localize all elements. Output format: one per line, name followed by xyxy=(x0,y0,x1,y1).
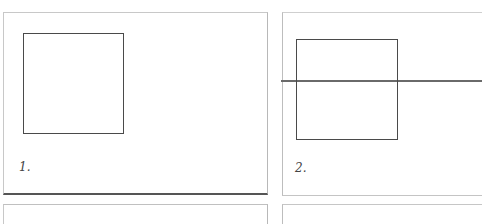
figure-panel-2: 2. xyxy=(282,12,482,196)
panel-number-label: 1. xyxy=(19,160,30,174)
square-drawing xyxy=(296,39,398,140)
figure-panel-1: 1. xyxy=(3,12,268,195)
figure-panel-4-partial xyxy=(282,204,482,224)
figure-panel-3-partial xyxy=(3,204,268,224)
square-drawing xyxy=(23,33,124,134)
panel-number-label: 2. xyxy=(295,161,306,175)
